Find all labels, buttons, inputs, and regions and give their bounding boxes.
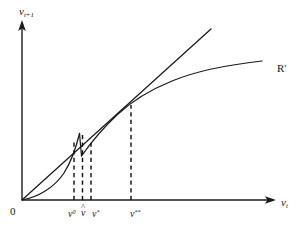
tick-label-v-star: v* — [92, 209, 100, 219]
x-axis-label-subscript: t — [286, 202, 288, 209]
plot-svg — [0, 0, 303, 233]
forty-five-degree-line — [22, 29, 211, 200]
tick-label-v-hat-mark: ^ — [81, 203, 84, 212]
dropline-group — [74, 105, 131, 200]
curve-label-r-prime: R' — [277, 63, 286, 74]
y-axis-label-subscript: t+1 — [24, 11, 34, 18]
tick-label-v-double-star-mark: ** — [134, 208, 140, 215]
figure-canvas: vt+1 vt R' 0 v0 ^v v* v** — [0, 0, 303, 233]
tick-label-v-zero-mark: 0 — [72, 208, 75, 215]
axes-group — [18, 20, 276, 204]
tick-label-v-double-star: v** — [130, 209, 141, 219]
x-axis-label: vt — [281, 197, 288, 210]
tick-label-v-star-mark: * — [96, 208, 99, 215]
return-curve-discontinuity-jump — [80, 134, 82, 157]
tick-label-v-hat: ^v — [81, 208, 85, 218]
y-axis-label: vt+1 — [19, 6, 34, 19]
return-curve-lower-branch — [22, 134, 80, 201]
tick-label-v-zero: v0 — [68, 209, 76, 219]
origin-label: 0 — [10, 206, 16, 217]
return-curve-upper-branch — [82, 61, 263, 156]
